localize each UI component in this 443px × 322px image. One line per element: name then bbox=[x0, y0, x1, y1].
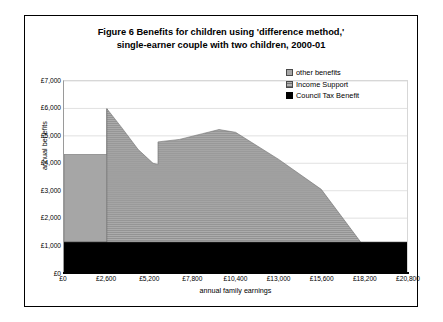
y-axis-tick-label: £5,000 bbox=[25, 132, 61, 139]
chart-legend: other benefitsIncome SupportCouncil Tax … bbox=[286, 67, 404, 102]
legend-item-label: Council Tax Benefit bbox=[296, 90, 359, 102]
area-council-tax-benefit bbox=[64, 242, 407, 273]
y-axis-tick-labels: £0£1,000£2,000£3,000£4,000£5,000£6,000£7… bbox=[25, 80, 61, 273]
x-axis-tick-label: £18,200 bbox=[342, 275, 388, 283]
legend-item: Income Support bbox=[286, 79, 404, 91]
figure-frame: Figure 6 Benefits for children using 'di… bbox=[24, 15, 418, 307]
y-axis-tick-label: £2,000 bbox=[25, 214, 61, 221]
x-axis-tick-label: £0 bbox=[40, 275, 86, 283]
council-tax-benefit-swatch bbox=[286, 92, 293, 99]
chart-plot-svg bbox=[64, 81, 407, 273]
y-axis-tick-label: £7,000 bbox=[25, 77, 61, 84]
x-axis-tick-label: £7,800 bbox=[169, 275, 215, 283]
area-other-benefits bbox=[64, 109, 107, 243]
legend-item-label: other benefits bbox=[296, 67, 341, 79]
x-axis-title: annual family earnings bbox=[63, 286, 408, 295]
chart-title-line-2: single-earner couple with two children, … bbox=[25, 39, 417, 52]
x-axis-tick-label: £10,400 bbox=[213, 275, 259, 283]
x-axis-tick-label: £15,600 bbox=[299, 275, 345, 283]
x-axis-tick-label: £20,800 bbox=[385, 275, 431, 283]
chart-title: Figure 6 Benefits for children using 'di… bbox=[25, 26, 417, 52]
income-support-swatch bbox=[286, 81, 293, 88]
y-axis-tick-label: £6,000 bbox=[25, 104, 61, 111]
legend-item-label: Income Support bbox=[296, 79, 348, 91]
other-benefits-swatch bbox=[286, 69, 293, 76]
y-axis-tick-label: £3,000 bbox=[25, 187, 61, 194]
legend-item: Council Tax Benefit bbox=[286, 90, 404, 102]
plot-area bbox=[63, 80, 408, 273]
y-axis-tick-label: £4,000 bbox=[25, 159, 61, 166]
chart-title-line-1: Figure 6 Benefits for children using 'di… bbox=[25, 26, 417, 39]
legend-item: other benefits bbox=[286, 67, 404, 79]
x-axis-tick-label: £5,200 bbox=[126, 275, 172, 283]
x-axis-tick-label: £13,000 bbox=[256, 275, 302, 283]
x-axis-line bbox=[63, 272, 409, 274]
x-axis-tick-label: £2,600 bbox=[83, 275, 129, 283]
y-axis-tick-label: £1,000 bbox=[25, 242, 61, 249]
